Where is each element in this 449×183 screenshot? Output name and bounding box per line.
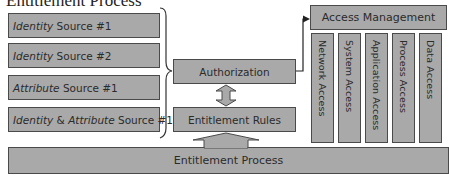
- connectors-layer: [0, 0, 449, 183]
- arrowhead-icon: [303, 16, 310, 23]
- double-arrow-icon: [216, 85, 236, 106]
- curly-brace-icon: [160, 8, 172, 138]
- connector-arrow-line: [296, 19, 306, 71]
- up-arrow-icon: [193, 133, 259, 148]
